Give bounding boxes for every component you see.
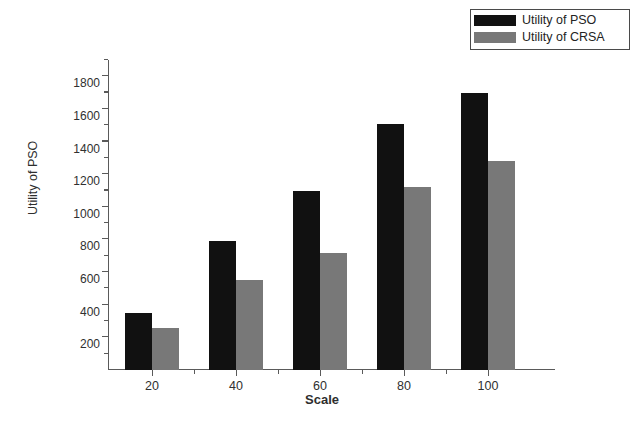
bar-utility-of-crsa-40 — [236, 280, 263, 370]
y-tick-major — [102, 75, 108, 76]
y-tick-major — [102, 173, 108, 174]
bar-utility-of-pso-40 — [209, 241, 236, 370]
legend-item-crsa: Utility of CRSA — [474, 29, 626, 46]
x-tick-minor — [362, 370, 363, 374]
x-tick-label: 80 — [397, 379, 411, 393]
y-tick-minor — [104, 157, 108, 158]
bar-utility-of-pso-20 — [125, 313, 152, 370]
bar-utility-of-crsa-60 — [320, 253, 347, 370]
legend-swatch-crsa — [474, 32, 516, 43]
legend-label-crsa: Utility of CRSA — [522, 31, 605, 44]
bar-utility-of-pso-100 — [461, 93, 488, 370]
y-tick-minor — [104, 189, 108, 190]
y-tick-major — [102, 108, 108, 109]
bar-utility-of-crsa-20 — [152, 328, 179, 370]
y-tick-minor — [104, 124, 108, 125]
x-tick-major — [152, 370, 153, 376]
x-tick-label: 40 — [229, 379, 243, 393]
x-tick-label: 100 — [478, 379, 499, 393]
legend-label-pso: Utility of PSO — [522, 14, 596, 27]
plot-area: 20040060080010001200140016001800 2040608… — [108, 60, 555, 370]
y-tick-minor — [104, 287, 108, 288]
bar-utility-of-crsa-80 — [404, 187, 431, 370]
x-tick-major — [320, 370, 321, 376]
y-tick-minor — [104, 222, 108, 223]
y-tick-major — [102, 140, 108, 141]
bar-utility-of-crsa-100 — [488, 161, 515, 370]
y-axis-title: Utility of PSO — [26, 141, 40, 215]
chart-legend: Utility of PSO Utility of CRSA — [470, 9, 630, 50]
x-tick-minor — [194, 370, 195, 374]
y-tick-major — [102, 238, 108, 239]
y-tick-major — [102, 336, 108, 337]
legend-swatch-pso — [474, 15, 516, 26]
bar-chart: Utility of PSO Utility of CRSA 200400600… — [0, 0, 644, 425]
x-tick-major — [488, 370, 489, 376]
y-tick-minor — [104, 353, 108, 354]
x-axis-title: Scale — [0, 392, 644, 407]
x-tick-major — [404, 370, 405, 376]
y-tick-minor — [104, 91, 108, 92]
y-tick-major — [102, 271, 108, 272]
x-tick-minor — [446, 370, 447, 374]
x-tick-minor — [278, 370, 279, 374]
bar-utility-of-pso-80 — [377, 124, 404, 370]
x-tick-label: 60 — [313, 379, 327, 393]
y-tick-minor — [104, 59, 108, 60]
y-tick-major — [102, 206, 108, 207]
y-tick-minor — [104, 320, 108, 321]
y-axis-line — [108, 60, 109, 370]
legend-item-pso: Utility of PSO — [474, 12, 626, 29]
y-tick-minor — [104, 255, 108, 256]
x-tick-label: 20 — [145, 379, 159, 393]
y-tick-major — [102, 304, 108, 305]
bar-utility-of-pso-60 — [293, 191, 320, 370]
x-tick-major — [236, 370, 237, 376]
